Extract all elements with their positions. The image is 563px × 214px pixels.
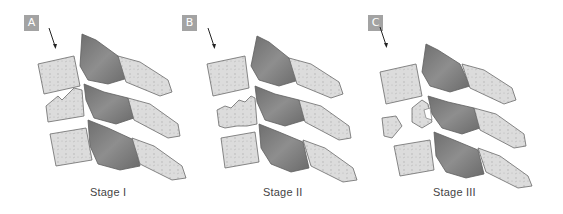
vertebrae-illustration	[0, 0, 188, 214]
stage-caption: Stage III	[433, 186, 476, 198]
stage-caption: Stage II	[263, 186, 303, 198]
arrow-icon	[380, 27, 388, 48]
panel-stage-2: B Stage II	[185, 0, 373, 214]
arrow-icon	[208, 28, 216, 49]
panel-stage-3: C Stage III	[370, 0, 558, 214]
stage-caption: Stage I	[90, 186, 126, 198]
vertebrae-illustration	[185, 0, 373, 214]
arrow-icon	[49, 28, 57, 49]
vertebrae-illustration	[370, 0, 563, 214]
panel-stage-1: A Stage I	[0, 0, 188, 214]
